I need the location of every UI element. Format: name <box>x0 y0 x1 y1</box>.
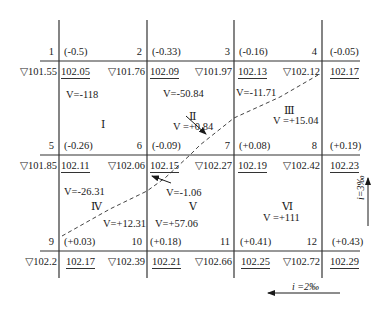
square-label-VI: Ⅵ <box>282 200 293 212</box>
node-10-natural: ▽102.39 <box>80 256 145 268</box>
volume-III-fill: V =+15.04 <box>273 115 319 127</box>
node-3-cut-fill: (-0.16) <box>239 46 268 58</box>
node-2-cut-fill: (-0.33) <box>152 46 181 58</box>
node-4-cut-fill: (-0.05) <box>330 46 359 58</box>
volume-I-cut: V=-118 <box>66 89 98 101</box>
slope-label-vertical: i=3‰ <box>355 175 367 200</box>
node-4-design: 102.17 <box>330 66 359 79</box>
node-9-id: 9 <box>28 236 54 248</box>
volume-II-fill: V =+0.84 <box>173 121 213 133</box>
node-11-id: 11 <box>204 236 230 248</box>
node-10-id: 10 <box>116 236 142 248</box>
square-label-IV: Ⅳ <box>91 200 102 212</box>
node-2-natural: ▽101.76 <box>80 66 145 78</box>
node-5-natural: ▽101.85 <box>0 160 57 172</box>
node-4-natural: ▽102.12 <box>254 66 320 78</box>
square-label-I: Ⅰ <box>101 118 105 130</box>
volume-II-cut: V=-50.84 <box>163 88 204 100</box>
node-12-id: 12 <box>291 236 317 248</box>
node-1-id: 1 <box>28 46 54 58</box>
node-7-natural: ▽102.27 <box>168 160 232 172</box>
node-4-id: 4 <box>291 46 317 58</box>
node-3-natural: ▽101.97 <box>168 66 232 78</box>
node-6-id: 6 <box>116 140 142 152</box>
volume-IV-fill: V=+12.31 <box>103 218 146 230</box>
slope-label-horizontal: i =2‰ <box>292 281 319 293</box>
node-3-id: 3 <box>204 46 230 58</box>
volume-IV-cut: V=-26.31 <box>64 186 105 198</box>
node-9-cut-fill: (+0.03) <box>64 236 95 248</box>
vertical-grid-lines <box>59 20 322 278</box>
node-9-natural: ▽102.2 <box>0 256 57 268</box>
node-12-natural: ▽102.72 <box>254 256 320 268</box>
node-7-id: 7 <box>204 140 230 152</box>
volume-III-cut: V=-11.71 <box>236 87 276 99</box>
node-12-cut-fill: (+0.43) <box>332 236 363 248</box>
node-6-cut-fill: (-0.09) <box>152 140 181 152</box>
node-2-id: 2 <box>116 46 142 58</box>
node-5-cut-fill: (-0.26) <box>64 140 93 152</box>
arrow-v-minus-1.06 <box>152 176 171 183</box>
node-8-cut-fill: (+0.19) <box>330 140 361 152</box>
node-6-natural: ▽102.06 <box>80 160 145 172</box>
node-8-natural: ▽102.42 <box>254 160 320 172</box>
node-10-cut-fill: (+0.18) <box>150 236 181 248</box>
node-8-id: 8 <box>291 140 317 152</box>
node-11-natural: ▽102.66 <box>168 256 232 268</box>
volume-V-fill: V=+57.06 <box>155 218 198 230</box>
volume-V-cut: V=-1.06 <box>166 187 201 199</box>
square-label-V: Ⅴ <box>189 200 197 212</box>
volume-VI-fill: V =+111 <box>263 212 300 224</box>
node-12-design: 102.29 <box>330 256 359 269</box>
node-8-design: 102.23 <box>330 160 359 173</box>
node-11-cut-fill: (+0.41) <box>240 236 271 248</box>
node-7-cut-fill: (+0.08) <box>239 140 270 152</box>
node-1-natural: ▽101.55 <box>0 66 57 78</box>
node-1-cut-fill: (-0.5) <box>64 46 88 58</box>
node-5-id: 5 <box>28 140 54 152</box>
